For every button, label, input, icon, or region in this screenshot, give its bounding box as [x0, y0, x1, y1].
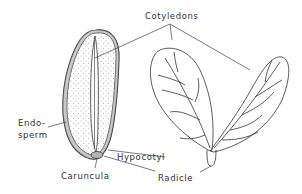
label-hypocotyl: Hypocotyl: [117, 152, 165, 162]
diagram-drawing: [0, 0, 302, 194]
label-endosperm-line2: sperm: [18, 130, 48, 140]
seed-diagram: Cotyledons Endo- sperm Hypocotyl Caruncu…: [0, 0, 302, 194]
label-cotyledons: Cotyledons: [145, 11, 199, 21]
seed-section: [63, 30, 119, 159]
embryo-cotyledons: [150, 48, 288, 166]
label-radicle: Radicle: [158, 173, 193, 183]
label-endosperm-line1: Endo-: [18, 118, 46, 128]
label-caruncula: Caruncula: [61, 171, 109, 181]
